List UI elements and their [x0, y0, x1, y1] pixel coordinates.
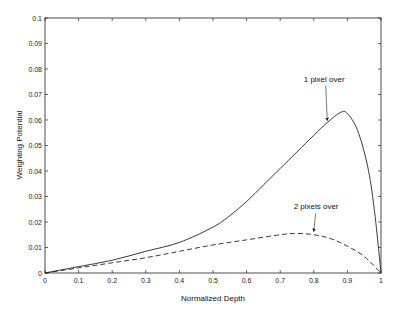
y-tick-label: 0.04 — [28, 168, 42, 175]
annotation-arrow — [326, 86, 328, 121]
x-tick-label: 0.7 — [275, 277, 285, 284]
x-axis-label: Normalized Depth — [181, 294, 245, 303]
y-tick-label: 0.01 — [28, 244, 42, 251]
y-tick-label: 0.02 — [28, 219, 42, 226]
x-tick-label: 1 — [379, 277, 383, 284]
y-tick-label: 0.06 — [28, 117, 42, 124]
y-tick-label: 0.08 — [28, 66, 42, 73]
y-tick-label: 0.03 — [28, 193, 42, 200]
x-tick-label: 0.9 — [343, 277, 353, 284]
series-group — [45, 111, 381, 273]
y-tick-label: 0.1 — [32, 15, 42, 22]
x-tick-label: 0.2 — [107, 277, 117, 284]
x-tick-label: 0.8 — [309, 277, 319, 284]
x-axis-ticks: 00.10.20.30.40.50.60.70.80.91 — [43, 18, 383, 284]
x-tick-label: 0.3 — [141, 277, 151, 284]
annotation-label: 2 pixels over — [294, 202, 339, 211]
y-tick-label: 0.07 — [28, 91, 42, 98]
annotation-arrow — [314, 213, 316, 231]
series-1-pixel-over — [45, 111, 381, 273]
x-tick-label: 0.1 — [74, 277, 84, 284]
y-tick-label: 0 — [38, 270, 42, 277]
y-axis-label: Weighting Potential — [15, 110, 24, 179]
chart: 00.10.20.30.40.50.60.70.80.91 00.010.020… — [0, 0, 400, 314]
x-tick-label: 0.5 — [208, 277, 218, 284]
y-tick-label: 0.05 — [28, 142, 42, 149]
annotations: 1 pixel over2 pixels over — [294, 75, 345, 232]
plot-frame — [45, 18, 381, 273]
x-tick-label: 0.4 — [175, 277, 185, 284]
x-tick-label: 0.6 — [242, 277, 252, 284]
y-tick-label: 0.09 — [28, 40, 42, 47]
annotation-label: 1 pixel over — [304, 75, 345, 84]
series-2-pixels-over — [45, 233, 381, 273]
x-tick-label: 0 — [43, 277, 47, 284]
y-axis-ticks: 00.010.020.030.040.050.060.070.080.090.1 — [28, 15, 381, 277]
